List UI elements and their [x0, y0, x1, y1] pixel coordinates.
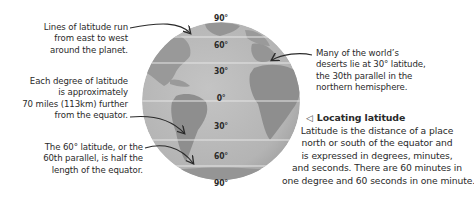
arrow-lines-of-latitude: [130, 24, 190, 33]
note-lines-of-latitude: Lines of latitude run from east to west …: [44, 22, 128, 56]
lat-label-60-north: 60°: [214, 40, 228, 50]
lat-label-equator: 0°: [217, 93, 226, 103]
caption-line: is expressed in degrees, minutes,: [282, 150, 472, 163]
lat-label-60-south: 60°: [214, 151, 228, 161]
caption-locating-latitude: ◁Locating latitude Latitude is the dista…: [282, 112, 472, 187]
lat-label-30-south: 30°: [214, 121, 228, 131]
note-line: deserts lie at 30° latitude,: [316, 59, 426, 70]
left-triangle-icon: ◁: [306, 112, 313, 125]
note-line: the 30th parallel in the: [316, 71, 426, 82]
lat-label-90-south: 90°: [214, 178, 228, 188]
caption-line: and seconds. There are 60 minutes in: [282, 162, 472, 175]
note-line: northern hemisphere.: [316, 82, 426, 93]
note-line: Many of the world’s: [316, 48, 426, 59]
caption-line: one degree and 60 seconds in one minute.: [282, 175, 472, 188]
caption-line: Latitude is the distance of a place: [282, 125, 472, 138]
note-line: The 60° latitude, or the: [43, 142, 143, 153]
caption-title-row: ◁Locating latitude: [282, 112, 472, 125]
lat-label-30-north: 30°: [214, 66, 228, 76]
caption-title: Locating latitude: [317, 112, 405, 123]
note-line: length of the equator.: [43, 165, 143, 176]
caption-line: north or south of the equator and: [282, 137, 472, 150]
lat-label-90-north: 90°: [214, 13, 228, 23]
note-line: is approximately: [22, 87, 128, 98]
note-line: from the equator.: [22, 110, 128, 121]
note-deserts: Many of the world’s deserts lie at 30° l…: [316, 48, 426, 93]
note-line: around the planet.: [44, 45, 128, 56]
note-line: Lines of latitude run: [44, 22, 128, 33]
note-line: from east to west: [44, 33, 128, 44]
note-line: 70 miles (113km) further: [22, 99, 128, 110]
note-line: Each degree of latitude: [22, 76, 128, 87]
note-line: 60th parallel, is half the: [43, 153, 143, 164]
note-sixtieth-parallel: The 60° latitude, or the 60th parallel, …: [43, 142, 143, 176]
note-degree-distance: Each degree of latitude is approximately…: [22, 76, 128, 121]
